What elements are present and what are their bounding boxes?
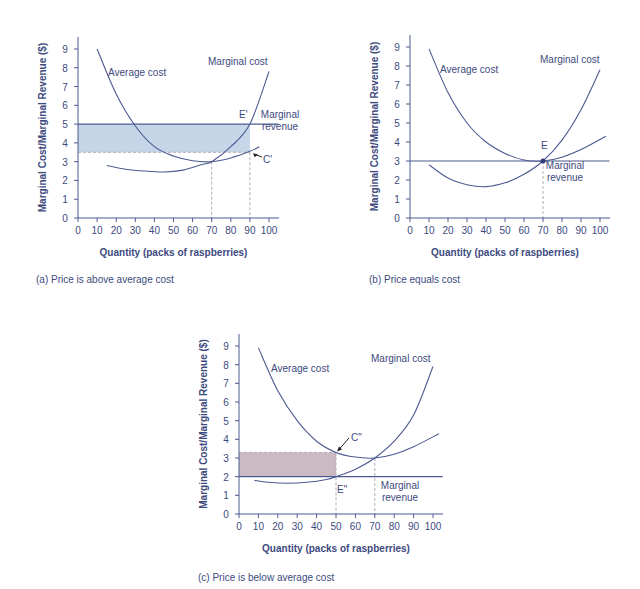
y-tick-label: 8 — [223, 360, 229, 371]
marginal-revenue-label: revenue — [382, 492, 419, 503]
loss-area — [239, 452, 336, 476]
x-tick-label: 10 — [253, 521, 265, 532]
chart-c-plot: 01234567890102030405060708090100Quantity… — [0, 0, 640, 589]
chart-panel-c: 01234567890102030405060708090100Quantity… — [0, 0, 640, 589]
y-tick-label: 0 — [223, 509, 229, 520]
x-tick-label: 20 — [272, 521, 284, 532]
y-tick-label: 1 — [223, 490, 229, 501]
x-tick-label: 90 — [408, 521, 420, 532]
y-tick-label: 9 — [223, 341, 229, 352]
marginal-cost-label: Marginal cost — [371, 353, 431, 364]
y-axis-title: Marginal Cost/Marginal Revenue ($) — [198, 339, 209, 508]
y-tick-label: 4 — [223, 434, 229, 445]
chart-c-caption: (c) Price is below average cost — [198, 572, 334, 583]
y-tick-label: 2 — [223, 472, 229, 483]
x-tick-label: 80 — [389, 521, 401, 532]
x-tick-label: 70 — [369, 521, 381, 532]
point-label: C" — [351, 432, 362, 443]
arrow-icon — [340, 438, 349, 448]
x-tick-label: 30 — [292, 521, 304, 532]
x-tick-label: 100 — [425, 521, 442, 532]
x-tick-label: 60 — [350, 521, 362, 532]
y-tick-label: 5 — [223, 416, 229, 427]
x-tick-label: 50 — [330, 521, 342, 532]
y-tick-label: 6 — [223, 397, 229, 408]
x-axis-title: Quantity (packs of raspberries) — [262, 543, 410, 554]
y-tick-label: 7 — [223, 378, 229, 389]
x-tick-label: 0 — [236, 521, 242, 532]
average-cost-label: Average cost — [271, 363, 329, 374]
x-tick-label: 40 — [311, 521, 323, 532]
point-label: E" — [337, 484, 348, 495]
y-tick-label: 3 — [223, 453, 229, 464]
marginal-revenue-label: Marginal — [381, 480, 419, 491]
